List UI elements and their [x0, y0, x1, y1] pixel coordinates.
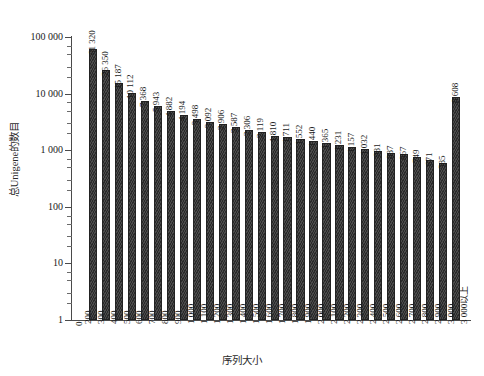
plot-area: 1101001 00010 000100 000 061 32026 35015… — [71, 37, 478, 320]
bar-value-label: 1 157 — [347, 132, 356, 152]
x-tick-label: 800 — [161, 311, 170, 325]
x-tick-label: 2 800 — [421, 304, 430, 324]
bar-value-label: 1 711 — [282, 123, 291, 143]
bar-value-label: 61 320 — [88, 30, 97, 55]
y-tick-minor — [67, 133, 72, 134]
bar — [439, 163, 447, 320]
x-tick-label: 700 — [148, 311, 157, 325]
bar-value-label: 2 119 — [256, 118, 265, 138]
bar — [154, 106, 162, 320]
x-tick-label: 1 500 — [252, 304, 261, 324]
figure-caption — [0, 369, 484, 376]
bar — [245, 130, 253, 320]
bar — [283, 137, 291, 320]
bar — [271, 136, 279, 320]
y-tick-label: 10 — [53, 258, 63, 268]
bar — [309, 141, 317, 320]
bar-chart-figure: 总Unigene的数目 1101001 00010 000100 000 061… — [0, 0, 484, 376]
bar — [335, 145, 343, 320]
bar — [167, 111, 175, 320]
y-tick-minor — [67, 272, 72, 273]
x-tick-label: 1 400 — [239, 304, 248, 324]
y-tick-minor — [67, 111, 72, 112]
y-tick-major — [65, 94, 72, 95]
x-tick-label: 1 100 — [200, 304, 209, 324]
bar — [128, 93, 136, 320]
x-tick-label: 2 700 — [408, 304, 417, 324]
bar-value-label: 1 440 — [308, 127, 317, 147]
bar-value-label: 1 032 — [360, 135, 369, 155]
bar-value-label: 4 882 — [165, 97, 174, 117]
y-tick-label: 100 — [48, 202, 63, 212]
y-tick-minor — [67, 216, 72, 217]
bar-value-label: 585 — [438, 156, 447, 170]
x-tick-label: 600 — [135, 311, 144, 325]
y-tick-major — [65, 263, 72, 264]
bar-value-label: 1 365 — [321, 128, 330, 148]
bar-value-label: 671 — [425, 153, 434, 167]
bar-value-label: 7 368 — [139, 87, 148, 107]
bar-value-label: 2 906 — [217, 110, 226, 130]
y-tick-label: 1 — [58, 315, 63, 325]
bar-value-label: 4 194 — [178, 101, 187, 121]
bar-value-label: 1 810 — [269, 121, 278, 141]
x-tick-label: 400 — [110, 311, 119, 325]
bar — [258, 132, 266, 320]
bar — [426, 160, 434, 320]
y-tick-major — [65, 207, 72, 208]
bar — [102, 70, 110, 320]
bar — [180, 115, 188, 320]
bar-value-label: 887 — [386, 146, 395, 160]
y-tick-label: 100 000 — [31, 32, 64, 42]
bar — [296, 139, 304, 320]
bar — [193, 119, 201, 320]
y-tick-minor — [67, 54, 72, 55]
y-axis-title: 总Unigene的数目 — [6, 100, 21, 220]
y-tick-minor — [67, 167, 72, 168]
x-tick-label: 3 000 — [447, 304, 456, 324]
x-tick-label: 1 000 — [187, 304, 196, 324]
y-tick-minor — [67, 280, 72, 281]
bar-value-label: 1 552 — [295, 125, 304, 145]
x-tick-label: 900 — [174, 311, 183, 325]
x-tick-label: 1 600 — [265, 304, 274, 324]
bar-value-label: 749 — [412, 150, 421, 164]
x-tick-label: 1 700 — [278, 304, 287, 324]
x-tick-label: 500 — [123, 311, 132, 325]
bar-value-label: 10 112 — [126, 75, 135, 99]
y-tick-major — [65, 320, 72, 321]
bar — [348, 147, 356, 320]
y-tick-minor — [67, 102, 72, 103]
bar — [387, 153, 395, 320]
y-tick-minor — [67, 224, 72, 225]
bar-value-label: 3 092 — [204, 108, 213, 128]
bar-value-label: 3 498 — [191, 105, 200, 125]
y-tick-minor — [67, 236, 72, 237]
x-tick-label: 1 800 — [291, 304, 300, 324]
x-tick-label: 2 200 — [343, 304, 352, 324]
bar — [400, 154, 408, 320]
bar-value-label: 2 306 — [243, 115, 252, 135]
bar-value-label: 1 231 — [334, 131, 343, 151]
bar-value-label: 867 — [399, 146, 408, 160]
y-tick-major — [65, 37, 72, 38]
bar — [361, 149, 369, 320]
y-tick-major — [65, 150, 72, 151]
bar — [206, 122, 214, 320]
y-tick-minor — [67, 293, 72, 294]
y-tick-label: 10 000 — [36, 89, 64, 99]
x-tick-label: 2 500 — [382, 304, 391, 324]
y-tick-label: 1 000 — [41, 145, 64, 155]
x-tick-label: 300 — [97, 311, 106, 325]
y-tick-minor — [67, 67, 72, 68]
bar — [115, 83, 123, 320]
y-tick-minor — [67, 180, 72, 181]
x-tick-label: 1 900 — [304, 304, 313, 324]
bar — [141, 101, 149, 320]
bar-value-label: 5 943 — [152, 92, 161, 112]
bar-value-label: 8 608 — [451, 83, 460, 103]
x-tick-label: 1 200 — [213, 304, 222, 324]
y-tick-minor — [67, 77, 72, 78]
bar-value-label: 26 350 — [101, 51, 110, 76]
x-tick-label: 200 — [84, 311, 93, 325]
